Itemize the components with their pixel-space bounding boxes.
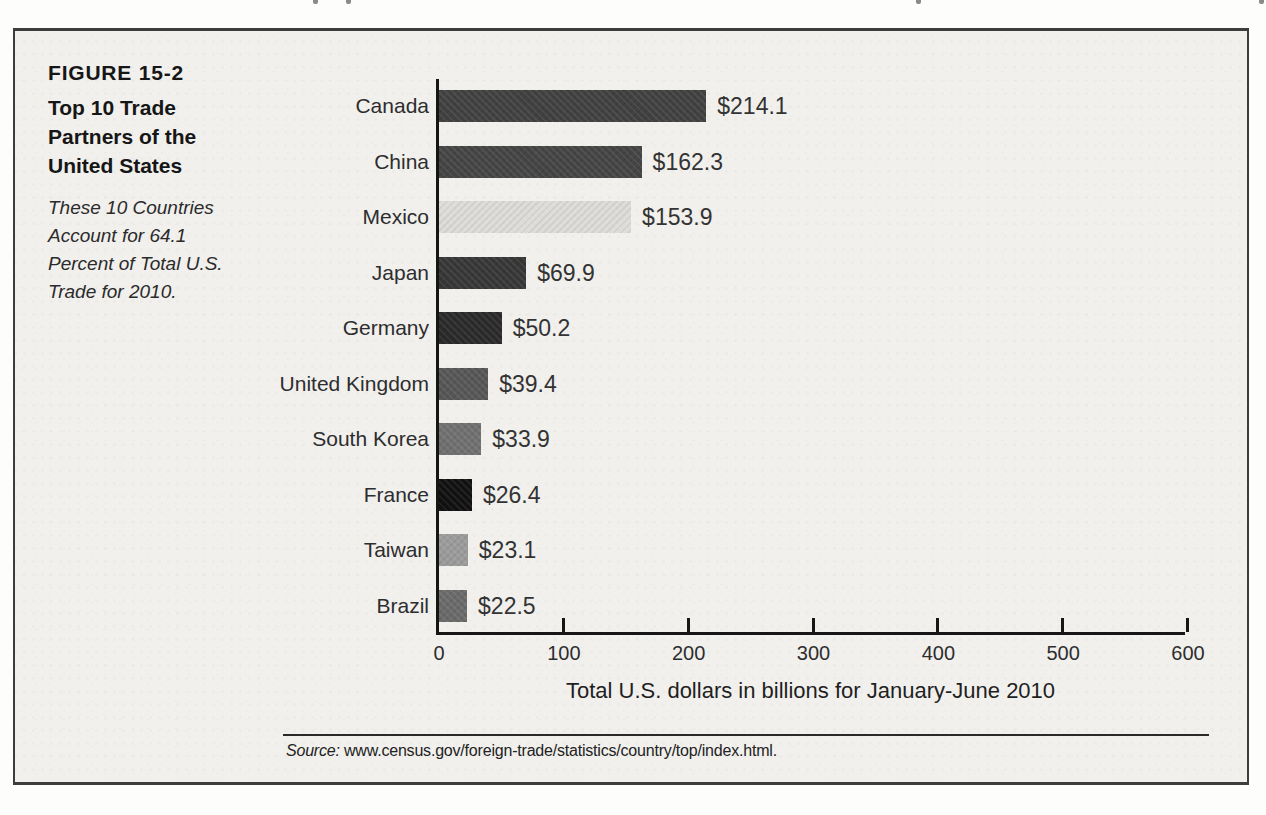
value-label: $26.4 <box>483 482 541 508</box>
value-label: $22.5 <box>478 593 536 619</box>
country-label: United Kingdom <box>15 371 429 397</box>
country-label: France <box>15 482 429 508</box>
crop-mark <box>346 0 351 4</box>
value-label: $214.1 <box>717 93 787 119</box>
tick-label: 400 <box>893 642 983 665</box>
country-label: Brazil <box>15 593 429 619</box>
value-label: $33.9 <box>492 426 550 452</box>
country-label: Taiwan <box>15 537 429 563</box>
source-divider <box>283 734 1209 736</box>
x-axis-line <box>436 632 1185 635</box>
axis-tick <box>687 618 690 632</box>
value-label: $162.3 <box>653 149 723 175</box>
axis-tick <box>936 618 939 632</box>
value-label: $69.9 <box>537 260 595 286</box>
source-url: www.census.gov/foreign-trade/statistics/… <box>340 742 777 759</box>
axis-tick <box>1186 618 1189 632</box>
country-label: Mexico <box>15 204 429 230</box>
axis-tick <box>562 618 565 632</box>
source-line: Source: www.census.gov/foreign-trade/sta… <box>286 742 1236 760</box>
value-label: $23.1 <box>479 537 537 563</box>
axis-tick <box>812 618 815 632</box>
bar <box>439 368 488 400</box>
bar <box>439 479 472 511</box>
x-axis-title: Total U.S. dollars in billions for Janua… <box>436 678 1185 704</box>
figure-box: FIGURE 15-2 Top 10 Trade Partners of the… <box>13 28 1249 785</box>
crop-mark <box>1259 0 1264 4</box>
bar <box>439 590 467 622</box>
tick-label: 300 <box>769 642 859 665</box>
bar <box>439 257 526 289</box>
country-label: Canada <box>15 93 429 119</box>
tick-label: 0 <box>394 642 484 665</box>
axis-tick <box>1061 618 1064 632</box>
country-label: South Korea <box>15 426 429 452</box>
country-label: Japan <box>15 260 429 286</box>
bar <box>439 201 631 233</box>
bar <box>439 312 502 344</box>
value-label: $50.2 <box>513 315 571 341</box>
tick-label: 100 <box>519 642 609 665</box>
bar <box>439 90 706 122</box>
crop-mark <box>313 0 318 4</box>
tick-label: 500 <box>1018 642 1108 665</box>
source-prefix: Source: <box>286 742 340 759</box>
tick-label: 200 <box>644 642 734 665</box>
scanned-page: FIGURE 15-2 Top 10 Trade Partners of the… <box>0 0 1266 815</box>
bar <box>439 534 468 566</box>
bar <box>439 146 642 178</box>
country-label: China <box>15 149 429 175</box>
value-label: $39.4 <box>499 371 557 397</box>
crop-mark <box>916 0 921 4</box>
value-label: $153.9 <box>642 204 712 230</box>
country-label: Germany <box>15 315 429 341</box>
tick-label: 600 <box>1143 642 1233 665</box>
bar <box>439 423 481 455</box>
bar-chart: Canada$214.1China$162.3Mexico$153.9Japan… <box>15 31 1251 731</box>
